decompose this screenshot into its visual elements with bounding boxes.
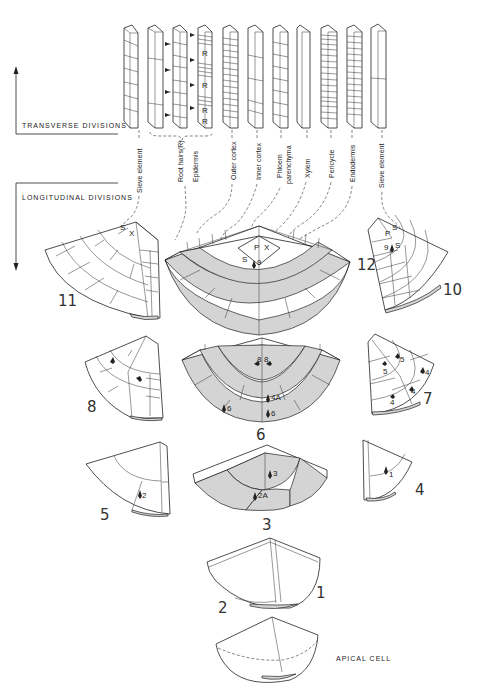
- label-inner-cortex: Inner cortex: [255, 143, 262, 180]
- label-endodermis: Endodermis: [349, 144, 356, 182]
- cell-label-x: X: [129, 229, 135, 238]
- label-outer-cortex: Outer cortex: [230, 141, 237, 180]
- stage-number-7: 7: [423, 390, 433, 408]
- column-sieve-element-2: [371, 24, 386, 128]
- stage-number-12: 12: [357, 256, 376, 274]
- label-parenchyma: parenchyma: [285, 145, 293, 184]
- column-xylem: [297, 25, 310, 128]
- cell-label-9: 9: [384, 243, 389, 252]
- cell-label-1: 1: [389, 470, 394, 479]
- stage-number-6: 6: [256, 426, 266, 444]
- cell-label-6: 6: [227, 404, 232, 413]
- stage-number-2: 2: [218, 599, 228, 617]
- stage-number-8: 8: [87, 398, 97, 416]
- stage-number-1: 1: [316, 584, 326, 602]
- stage-number-11: 11: [58, 292, 77, 310]
- arrow-up-icon: [14, 66, 19, 74]
- column-pericycle: [321, 25, 337, 128]
- longitudinal-divisions-label: LONGITUDINAL DIVISIONS: [22, 194, 133, 201]
- stage-3-diagram: 3 2A 3: [193, 445, 327, 534]
- label-pericycle: Pericycle: [328, 149, 336, 178]
- stage-4-diagram: 1 4: [363, 440, 425, 501]
- apical-cell-diagram: APICAL CELL: [216, 617, 391, 682]
- cell-label-2: 2: [142, 491, 147, 500]
- stage-10-diagram: P S 9 S 10: [368, 215, 462, 313]
- cell-label-2a: 2A: [258, 491, 268, 500]
- column-inner-cortex: [248, 25, 263, 128]
- stage-number-10: 10: [443, 281, 462, 299]
- cell-label-8: 8: [257, 355, 262, 364]
- root-diagram: R R R R: [0, 0, 481, 691]
- cell-label-6: 6: [271, 409, 276, 418]
- cell-label-s: S: [392, 223, 397, 232]
- cell-label-s: S: [120, 223, 125, 232]
- root-hair-marker: R: [202, 81, 208, 90]
- stage-7-diagram: 5 5 4 4 4 7: [368, 334, 434, 415]
- label-epidermis: Epidermis: [192, 150, 200, 182]
- cell-label-4a: 4A: [271, 393, 281, 402]
- stage-5-diagram: 2 5: [86, 442, 170, 524]
- cell-columns: R R R R: [124, 24, 386, 140]
- stage-2-1-diagram: 2 1: [207, 538, 326, 617]
- label-sieve-element: Sieve element: [136, 149, 143, 193]
- label-phloem: Phloem: [276, 154, 283, 178]
- stage-8-diagram: 8: [85, 336, 163, 421]
- cell-label-p: P: [254, 243, 259, 252]
- cell-label-p: P: [385, 229, 390, 238]
- column-phloem-parenchyma: [273, 25, 288, 128]
- label-sieve-element-2: Sieve element: [378, 144, 385, 188]
- label-xylem: Xylem: [304, 158, 312, 178]
- tissue-labels: Sieve element Root hairs(R) Epidermis Ou…: [122, 130, 403, 242]
- root-hair-marker: R: [202, 106, 208, 115]
- cell-label-3: 3: [273, 469, 278, 478]
- column-sieve-element: [124, 25, 138, 128]
- column-epidermis: R R R R: [198, 25, 212, 128]
- root-hair-marker: R: [202, 49, 208, 58]
- stage-number-3: 3: [262, 516, 272, 534]
- column-outer-cortex: [223, 25, 238, 128]
- cell-label-9: 9: [257, 258, 262, 267]
- cell-label-4: 4: [425, 368, 430, 377]
- column-root-hairs-2: [173, 25, 195, 128]
- cell-label-s: S: [242, 255, 247, 264]
- column-endodermis: [347, 25, 362, 128]
- label-root-hairs: Root hairs(R): [177, 140, 185, 182]
- transverse-divisions-label: TRANSVERSE DIVISIONS: [22, 122, 127, 129]
- stage-9-diagram: P X S 9 9 12: [165, 226, 376, 359]
- cell-label-5: 5: [400, 355, 405, 364]
- cell-label-4: 4: [411, 387, 416, 396]
- cell-label-x: X: [264, 243, 270, 252]
- apical-cell-label: APICAL CELL: [336, 655, 391, 662]
- stage-6-diagram: 8 8 4A 6 6 6: [182, 338, 340, 444]
- cell-label-8: 8: [264, 355, 269, 364]
- stage-number-5: 5: [100, 506, 110, 524]
- stage-number-4: 4: [415, 481, 425, 499]
- stage-11-diagram: S X 11: [45, 222, 160, 320]
- cell-label-4: 4: [390, 398, 395, 407]
- cell-label-s: S: [395, 241, 400, 250]
- root-hair-marker: R: [202, 117, 208, 126]
- column-root-hairs-1: [148, 25, 171, 128]
- arrow-down-icon: [14, 263, 19, 271]
- cell-label-5: 5: [383, 367, 388, 376]
